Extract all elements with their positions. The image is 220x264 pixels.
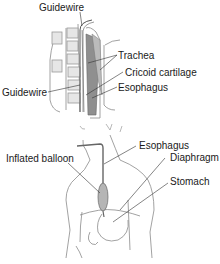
label-guidewire-left: Guidewire (2, 88, 47, 98)
label-diaphragm: Diaphragm (170, 153, 219, 163)
label-cricoid-cartilage: Cricoid cartilage (125, 68, 197, 78)
label-esophagus-bottom: Esophagus (139, 141, 189, 151)
medical-diagram: Guidewire Trachea Cricoid cartilage Guid… (0, 0, 220, 264)
neck-section (50, 24, 120, 118)
label-esophagus-top: Esophagus (118, 83, 168, 93)
torso-outline (66, 135, 154, 258)
leader-lines-top (48, 12, 123, 98)
label-inflated-balloon: Inflated balloon (6, 154, 74, 164)
diagram-artwork (0, 0, 220, 264)
label-stomach: Stomach (170, 177, 209, 187)
inflated-balloon-shape (98, 183, 108, 211)
label-guidewire-top: Guidewire (39, 3, 84, 13)
label-trachea: Trachea (118, 51, 154, 61)
feeding-tube (77, 144, 103, 185)
